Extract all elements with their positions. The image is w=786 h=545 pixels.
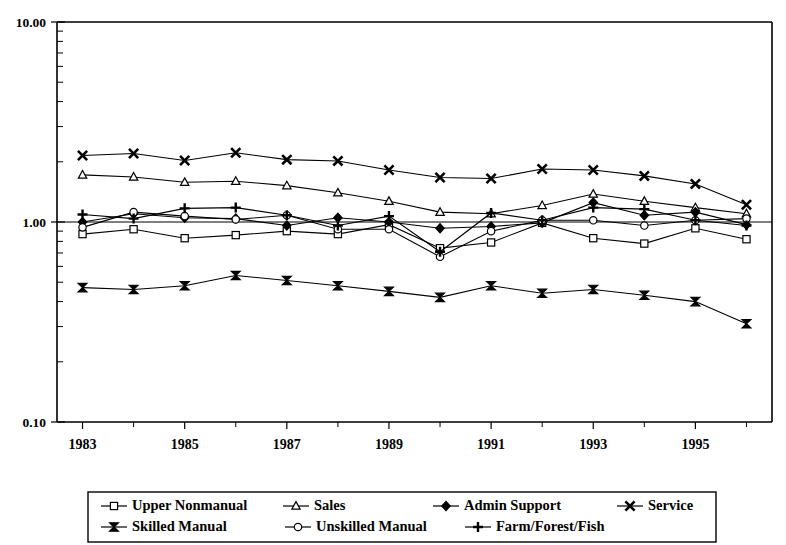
- y-axis-tick-label: 1.00: [22, 215, 46, 230]
- marker-open-circle: [232, 216, 239, 223]
- x-axis-ticks: [83, 422, 747, 429]
- series-farm-forest-fish: [78, 203, 752, 257]
- marker-open-triangle: [589, 190, 597, 198]
- marker-open-circle: [181, 212, 188, 219]
- x-axis-tick-label: 1983: [69, 437, 97, 452]
- x-axis-tick-labels: 1983198519871989199119931995: [69, 437, 710, 452]
- legend-label: Admin Support: [464, 497, 561, 513]
- data-point-open-triangle: [78, 170, 86, 178]
- marker-plus: [639, 204, 649, 214]
- marker-open-square: [743, 236, 750, 243]
- data-point-open-circle: [590, 217, 597, 224]
- data-point-plus: [639, 204, 649, 214]
- data-point-open-circle: [232, 216, 239, 223]
- x-axis-tick-label: 1991: [477, 437, 505, 452]
- line-chart-log-scale: 10.001.000.10 19831985198719891991199319…: [0, 0, 786, 545]
- marker-open-square: [110, 502, 117, 509]
- marker-plus: [384, 211, 394, 221]
- marker-open-square: [488, 239, 495, 246]
- data-point-open-circle: [294, 523, 301, 530]
- y-axis-tick-label: 0.10: [22, 415, 46, 430]
- marker-solid-diamond: [436, 224, 444, 233]
- marker-open-circle: [294, 523, 301, 530]
- x-axis-tick-label: 1985: [171, 437, 199, 452]
- data-point-open-square: [743, 236, 750, 243]
- data-point-open-circle: [487, 227, 494, 234]
- data-point-open-circle: [181, 212, 188, 219]
- marker-open-square: [130, 226, 137, 233]
- data-point-open-circle: [79, 224, 86, 231]
- marker-plus: [282, 210, 292, 220]
- marker-open-circle: [641, 222, 648, 229]
- data-point-open-square: [641, 240, 648, 247]
- data-point-open-square: [488, 239, 495, 246]
- data-point-open-square: [692, 225, 699, 232]
- data-point-open-circle: [385, 226, 392, 233]
- y-axis-tick-labels: 10.001.000.10: [16, 15, 47, 430]
- chart-figure: 10.001.000.10 19831985198719891991199319…: [0, 0, 786, 545]
- marker-open-square: [692, 225, 699, 232]
- marker-solid-bowtie: [742, 320, 751, 328]
- data-point-plus: [78, 210, 88, 220]
- marker-plus: [690, 215, 700, 225]
- data-point-open-square: [181, 235, 188, 242]
- y-axis-minor-ticks: [57, 31, 63, 362]
- legend-label: Skilled Manual: [132, 518, 227, 534]
- data-point-plus: [282, 210, 292, 220]
- marker-open-square: [590, 235, 597, 242]
- series-skilled-manual: [78, 271, 751, 328]
- data-point-plus: [180, 203, 190, 213]
- x-axis-tick-label: 1987: [273, 437, 301, 452]
- marker-plus: [180, 203, 190, 213]
- data-point-open-triangle: [589, 190, 597, 198]
- marker-plus: [231, 203, 241, 213]
- data-point-solid-bowtie: [742, 320, 751, 328]
- marker-open-triangle: [78, 170, 86, 178]
- marker-open-circle: [385, 226, 392, 233]
- data-point-open-square: [232, 232, 239, 239]
- marker-plus: [78, 210, 88, 220]
- x-axis-tick-label: 1995: [681, 437, 709, 452]
- data-point-solid-diamond: [436, 224, 444, 233]
- legend-label: Farm/Forest/Fish: [496, 518, 604, 534]
- series-service: [78, 148, 751, 209]
- x-axis-tick-label: 1989: [375, 437, 403, 452]
- legend-label: Unskilled Manual: [316, 518, 427, 534]
- marker-open-circle: [487, 227, 494, 234]
- legend-label: Sales: [314, 497, 346, 513]
- marker-open-triangle: [232, 177, 240, 185]
- chart-legend: Upper NonmanualSalesAdmin SupportService…: [88, 492, 716, 542]
- marker-open-square: [641, 240, 648, 247]
- data-point-plus: [690, 215, 700, 225]
- data-point-plus: [384, 211, 394, 221]
- x-axis-tick-label: 1993: [579, 437, 607, 452]
- data-point-open-square: [590, 235, 597, 242]
- data-point-plus: [231, 203, 241, 213]
- legend-label: Upper Nonmanual: [132, 497, 247, 513]
- data-point-open-triangle: [232, 177, 240, 185]
- marker-open-square: [181, 235, 188, 242]
- data-point-open-square: [130, 226, 137, 233]
- data-point-open-circle: [641, 222, 648, 229]
- marker-open-circle: [590, 217, 597, 224]
- marker-open-square: [232, 232, 239, 239]
- marker-open-circle: [79, 224, 86, 231]
- series-layer: [78, 148, 752, 328]
- marker-solid-x: [742, 200, 751, 209]
- data-point-solid-x: [742, 200, 751, 209]
- series-upper-nonmanual: [79, 219, 750, 251]
- legend-label: Service: [648, 497, 694, 513]
- data-point-open-square: [110, 502, 117, 509]
- y-axis-tick-label: 10.00: [16, 15, 47, 30]
